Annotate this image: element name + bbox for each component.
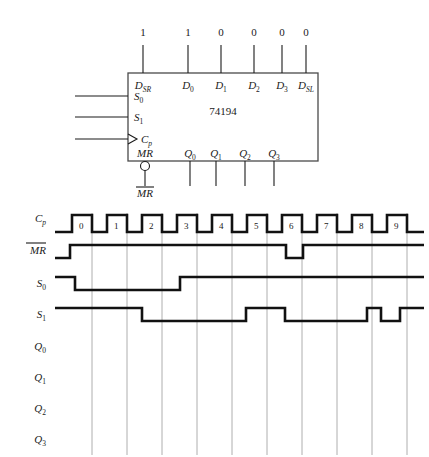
inversion-bubble-icon [141, 162, 150, 171]
left-pin-stubs [75, 96, 128, 139]
timing-label-q3: Q3 [34, 433, 46, 448]
cycle-label-5: 5 [254, 221, 259, 231]
cycle-label-1: 1 [114, 221, 119, 231]
cycle-label-3: 3 [184, 221, 189, 231]
timing-label-q0: Q0 [34, 340, 46, 355]
timing-gridlines [92, 213, 407, 455]
mr-bar-text: MR [136, 187, 153, 199]
input-value-d3: 0 [279, 26, 285, 38]
figure-canvas: 74194 1 1 0 0 0 0 DSR D0 D1 D2 D3 DSL [0, 0, 429, 457]
cycle-label-2: 2 [149, 221, 154, 231]
cycle-label-9: 9 [394, 221, 399, 231]
pin-label-s1: S1 [134, 111, 144, 126]
blank-row-q1 [55, 364, 424, 392]
cycle-label-6: 6 [289, 221, 294, 231]
q-output-pins: Q0 Q1 Q2 Q3 [184, 147, 280, 186]
timing-row-labels: Cp MR S0 S1 Q0 Q1 Q2 Q3 [26, 212, 46, 448]
pin-label-dsl: DSL [297, 79, 314, 94]
timing-label-mrbar-group: MR [26, 243, 46, 256]
input-value-d2: 0 [251, 26, 257, 38]
top-pin-labels: DSR D0 D1 D2 D3 DSL [134, 79, 314, 94]
timing-label-q1: Q1 [34, 371, 46, 386]
blank-row-q2 [55, 395, 424, 423]
timing-label-s0: S0 [37, 277, 47, 292]
pin-label-d1: D1 [214, 79, 227, 94]
pin-label-cp: Cp [141, 133, 152, 148]
diagram-svg: 74194 1 1 0 0 0 0 DSR D0 D1 D2 D3 DSL [0, 0, 429, 457]
pin-label-q0: Q0 [184, 147, 196, 162]
top-pin-stubs [143, 45, 306, 73]
clock-edge-triangle-icon [128, 134, 137, 144]
pin-label-d2: D2 [247, 79, 260, 94]
waveform-cp [55, 215, 424, 232]
cycle-label-7: 7 [324, 221, 329, 231]
pin-label-q1: Q1 [210, 147, 222, 162]
ic-name-label: 74194 [209, 105, 237, 117]
pin-label-d0: D0 [181, 79, 194, 94]
input-value-dsr: 1 [140, 26, 146, 38]
blank-output-rows [55, 333, 424, 454]
waveform-mrbar [55, 245, 424, 258]
input-value-dsl: 0 [303, 26, 309, 38]
timing-label-s1: S1 [37, 308, 47, 323]
blank-row-q0 [55, 333, 424, 361]
pin-label-d3: D3 [275, 79, 288, 94]
top-input-values: 1 1 0 0 0 0 [140, 26, 309, 38]
cycle-label-0: 0 [79, 221, 84, 231]
pin-label-mr: MR [136, 147, 153, 159]
timing-diagram-group: Cp MR S0 S1 Q0 Q1 Q2 Q3 [26, 212, 424, 455]
input-value-d1: 0 [218, 26, 224, 38]
pin-label-q2: Q2 [239, 147, 251, 162]
schematic-group: 74194 1 1 0 0 0 0 DSR D0 D1 D2 D3 DSL [75, 26, 318, 199]
timing-label-mrbar: MR [29, 244, 46, 256]
timing-label-q2: Q2 [34, 402, 46, 417]
waveform-s0 [55, 277, 424, 290]
waveform-s1 [55, 308, 424, 321]
cycle-label-4: 4 [219, 221, 224, 231]
blank-row-q3 [55, 426, 424, 454]
external-mr-label: MR [136, 187, 154, 199]
timing-label-cp: Cp [35, 212, 46, 227]
cycle-label-8: 8 [359, 221, 364, 231]
pin-label-q3: Q3 [268, 147, 280, 162]
input-value-d0: 1 [185, 26, 191, 38]
